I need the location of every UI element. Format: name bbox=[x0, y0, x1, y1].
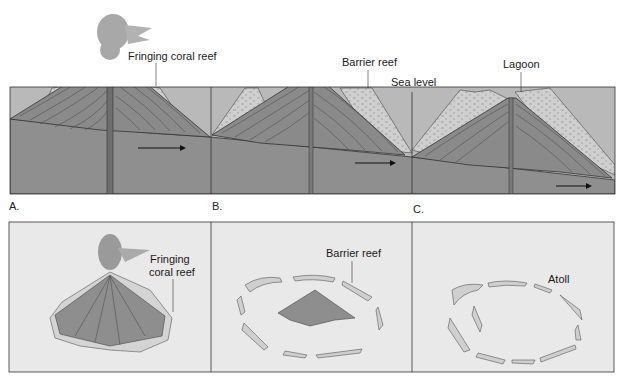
panel-label-c: C. bbox=[413, 203, 424, 215]
volcanic-conduit-a bbox=[107, 58, 113, 198]
annotation-sea-level: Sea level bbox=[391, 76, 436, 88]
coral-reef-formation-diagram: Fringing coral reef Barrier reef Sea lev… bbox=[0, 0, 624, 382]
panel-label-a: A. bbox=[9, 200, 19, 212]
panel-label-b: B. bbox=[212, 200, 222, 212]
annotation-fringing-coral-reef: Fringing coral reef bbox=[128, 50, 218, 62]
cross-section-panel: Fringing coral reef Barrier reef Sea lev… bbox=[9, 14, 615, 215]
annotation-atoll: Atoll bbox=[548, 273, 569, 285]
annotation-lagoon: Lagoon bbox=[503, 58, 540, 70]
annotation-barrier-reef-map: Barrier reef bbox=[326, 247, 382, 259]
annotation-barrier-reef: Barrier reef bbox=[342, 56, 398, 68]
annotation-coral-reef: coral reef bbox=[149, 266, 196, 278]
annotation-fringing: Fringing bbox=[150, 253, 190, 265]
map-view-panels: Fringing coral reef Barrier reef bbox=[9, 222, 614, 372]
